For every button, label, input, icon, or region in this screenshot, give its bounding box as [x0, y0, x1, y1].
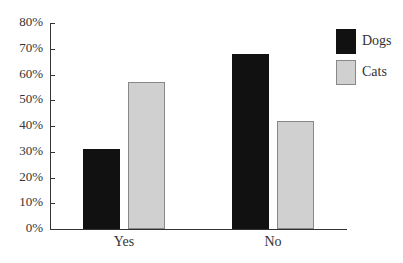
y-tick-label: 70%	[3, 41, 43, 55]
y-tick-label: 60%	[3, 67, 43, 81]
y-tick	[50, 100, 55, 101]
y-tick	[50, 126, 55, 127]
y-tick	[50, 178, 55, 179]
x-category-label: No	[243, 234, 303, 250]
y-tick	[50, 23, 55, 24]
y-tick-label: 40%	[3, 118, 43, 132]
y-tick	[50, 203, 55, 204]
bar-cats-no	[277, 121, 314, 229]
y-tick-label: 50%	[3, 92, 43, 106]
legend-label-cats: Cats	[362, 64, 387, 80]
legend-swatch-cats	[336, 60, 356, 85]
legend-swatch-dogs	[336, 29, 356, 54]
y-tick	[50, 75, 55, 76]
bar-chart: 0%10%20%30%40%50%60%70%80%YesNoDogsCats	[0, 0, 403, 263]
y-tick	[50, 49, 55, 50]
x-axis-line	[50, 229, 347, 230]
legend-label-dogs: Dogs	[362, 33, 392, 49]
y-tick-label: 20%	[3, 170, 43, 184]
y-tick-label: 0%	[3, 221, 43, 235]
y-tick-label: 10%	[3, 195, 43, 209]
y-tick-label: 30%	[3, 144, 43, 158]
y-tick	[50, 152, 55, 153]
y-tick-label: 80%	[3, 15, 43, 29]
bar-dogs-no	[232, 54, 269, 229]
bar-cats-yes	[128, 82, 165, 229]
x-category-label: Yes	[94, 234, 154, 250]
bar-dogs-yes	[83, 149, 120, 229]
